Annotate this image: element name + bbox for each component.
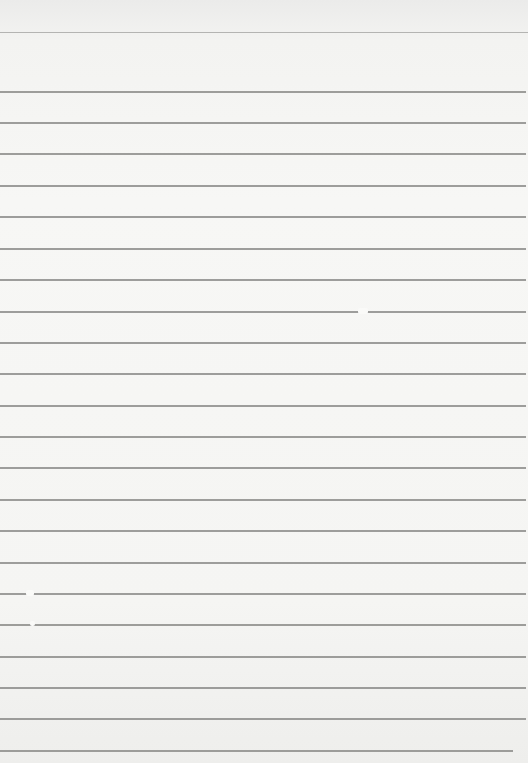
ruled-line [0,373,526,375]
ruled-line [0,153,526,155]
ruled-line [0,750,513,752]
ruled-line [0,32,528,33]
ruled-line [0,216,526,218]
lined-paper [0,0,528,763]
glare-spot [30,621,35,626]
ruled-line [0,593,526,595]
ruled-line [0,530,526,532]
glare-spot [358,308,368,314]
ruled-line [0,279,526,281]
ruled-line [0,687,526,689]
ruled-line [0,718,526,720]
ruled-line [0,624,526,626]
ruled-line [0,122,526,124]
ruled-line [0,656,526,658]
ruled-line [0,91,526,93]
ruled-line [0,248,526,250]
ruled-line [0,405,526,407]
glare-spot [26,590,34,596]
ruled-line [0,467,526,469]
ruled-line [0,499,526,501]
ruled-line [0,436,526,438]
ruled-line [0,342,526,344]
ruled-line [0,311,526,313]
ruled-line [0,185,526,187]
ruled-line [0,562,526,564]
